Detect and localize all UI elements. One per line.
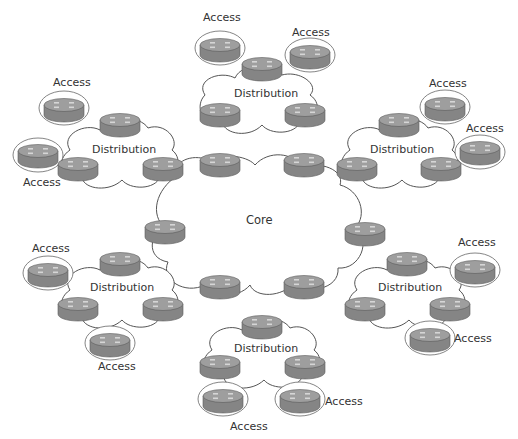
distribution-label-upper-right: Distribution bbox=[370, 143, 434, 156]
distribution-label-lower-right: Distribution bbox=[378, 281, 442, 294]
access-label: Access bbox=[203, 11, 241, 24]
access-label: Access bbox=[53, 76, 91, 89]
network-diagram: Core Distribution Access Access Distribu… bbox=[0, 0, 518, 439]
access-label: Access bbox=[23, 176, 61, 189]
access-label: Access bbox=[325, 395, 363, 408]
distribution-label-lower-left: Distribution bbox=[90, 281, 154, 294]
distribution-label-upper-left: Distribution bbox=[92, 143, 156, 156]
core-label: Core bbox=[246, 213, 273, 227]
access-label: Access bbox=[292, 26, 330, 39]
distribution-label-bottom: Distribution bbox=[234, 342, 298, 355]
access-label: Access bbox=[98, 360, 136, 373]
access-label: Access bbox=[429, 77, 467, 90]
access-label: Access bbox=[454, 332, 492, 345]
access-label: Access bbox=[32, 242, 70, 255]
distribution-label-top: Distribution bbox=[234, 87, 298, 100]
access-label: Access bbox=[458, 236, 496, 249]
access-label: Access bbox=[230, 420, 268, 433]
access-label: Access bbox=[466, 122, 504, 135]
